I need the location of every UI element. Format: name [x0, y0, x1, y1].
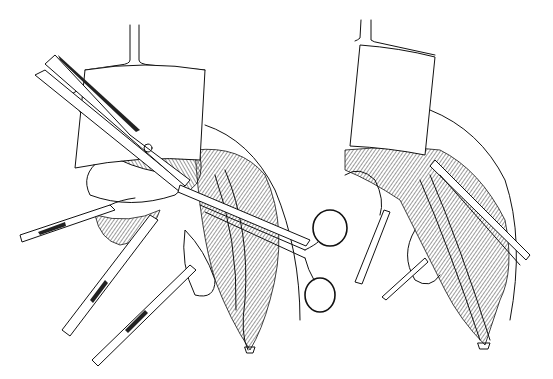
- forceps-right-1: [355, 210, 390, 284]
- forceps-right-2: [382, 258, 428, 300]
- retractor-right: [350, 20, 435, 155]
- left-panel: [20, 25, 347, 366]
- right-panel: [345, 20, 530, 349]
- surgical-illustration: [0, 0, 553, 379]
